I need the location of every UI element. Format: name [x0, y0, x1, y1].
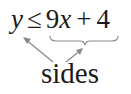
underbrace-icon: [50, 36, 118, 45]
sides-label: sides: [41, 58, 99, 88]
